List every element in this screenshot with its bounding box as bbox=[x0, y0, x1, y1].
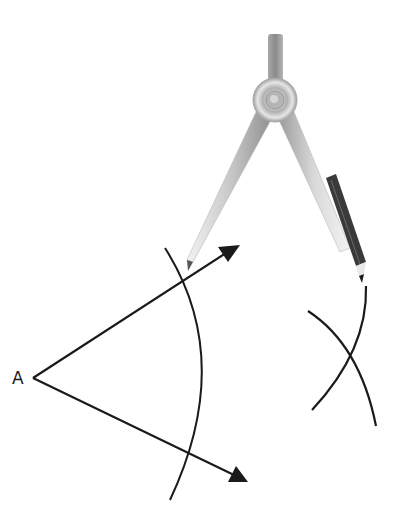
ray-lower bbox=[33, 378, 234, 475]
arc-left bbox=[165, 248, 202, 500]
arc-right-drawn bbox=[312, 286, 366, 410]
arc-right-crossing bbox=[308, 311, 376, 426]
vertex-label: A bbox=[12, 368, 24, 388]
compass-icon bbox=[187, 34, 366, 283]
compass-needle-leg bbox=[187, 112, 272, 262]
angle-construction-diagram bbox=[0, 0, 399, 522]
compass-handle bbox=[268, 34, 283, 84]
compass-pencil-leg bbox=[278, 112, 350, 252]
angle-rays bbox=[33, 245, 248, 482]
ray-upper bbox=[33, 253, 226, 378]
ray-upper-arrowhead-icon bbox=[218, 245, 240, 262]
